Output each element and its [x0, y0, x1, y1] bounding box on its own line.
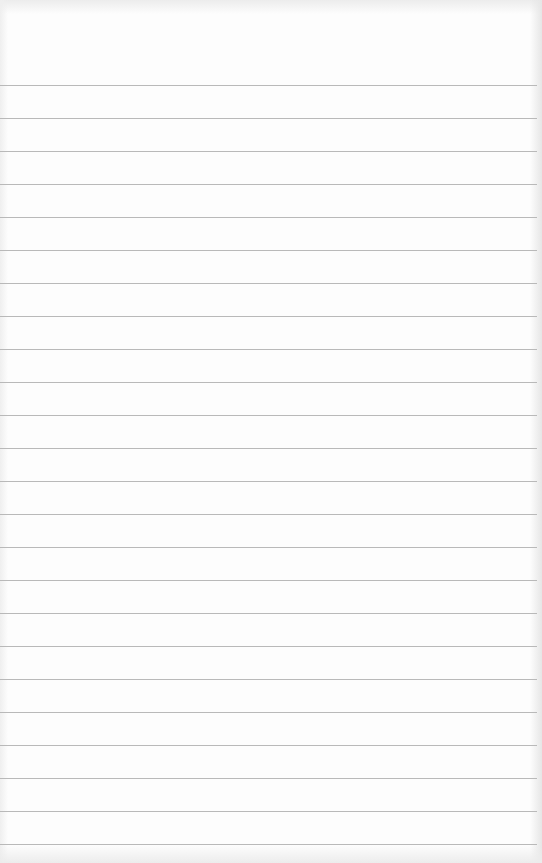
bottom-edge-shadow — [0, 845, 542, 863]
ruled-line — [0, 118, 537, 119]
ruled-line — [0, 844, 537, 845]
ruled-line — [0, 448, 537, 449]
ruled-line — [0, 514, 537, 515]
lined-paper-sheet — [0, 0, 542, 863]
ruled-line — [0, 811, 537, 812]
ruled-line — [0, 250, 537, 251]
ruled-line — [0, 151, 537, 152]
ruled-line — [0, 613, 537, 614]
ruled-line — [0, 415, 537, 416]
ruled-line — [0, 283, 537, 284]
right-edge-shadow — [530, 0, 542, 863]
top-edge-shadow — [0, 0, 542, 14]
ruled-line — [0, 745, 537, 746]
left-edge-shadow — [0, 0, 8, 863]
ruled-line — [0, 481, 537, 482]
ruled-line — [0, 85, 537, 86]
ruled-line — [0, 580, 537, 581]
ruled-line — [0, 217, 537, 218]
ruled-line — [0, 316, 537, 317]
ruled-line — [0, 778, 537, 779]
ruled-line — [0, 679, 537, 680]
ruled-line — [0, 349, 537, 350]
ruled-line — [0, 547, 537, 548]
ruled-line — [0, 646, 537, 647]
ruled-line — [0, 382, 537, 383]
ruled-line — [0, 712, 537, 713]
ruled-line — [0, 184, 537, 185]
